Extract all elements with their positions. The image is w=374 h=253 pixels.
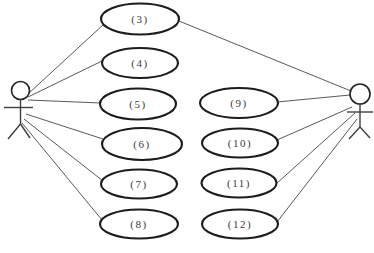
use-case-label-4: (4)	[131, 57, 148, 70]
use-case-node-10: (10)	[202, 129, 278, 158]
actor-right	[347, 84, 373, 139]
association-line-left-uc6	[26, 114, 103, 139]
use-case-node-4: (4)	[102, 48, 178, 78]
use-case-label-9: (9)	[230, 97, 247, 110]
use-case-node-5: (5)	[100, 89, 176, 120]
use-case-node-3: (3)	[101, 4, 179, 35]
use-case-node-12: (12)	[202, 210, 278, 239]
actor-right-leg-left	[349, 127, 360, 139]
association-line-left-uc4	[28, 60, 104, 97]
association-line-right-uc3	[179, 21, 351, 91]
use-case-diagram-canvas: (3) (4) (5) (6) (7) (8) (9) (10)	[0, 0, 374, 253]
actor-left-leg-left	[8, 124, 21, 139]
use-case-label-11: (11)	[227, 177, 251, 190]
use-case-node-7: (7)	[101, 170, 177, 199]
use-case-label-8: (8)	[130, 218, 147, 231]
use-case-node-6: (6)	[102, 128, 182, 160]
use-case-diagram: (3) (4) (5) (6) (7) (8) (9) (10)	[0, 0, 374, 253]
actor-right-leg-right	[360, 127, 370, 138]
association-line-right-uc11	[276, 113, 355, 184]
use-case-label-12: (12)	[228, 218, 252, 231]
use-case-label-6: (6)	[133, 138, 150, 151]
actor-right-head-icon	[350, 84, 370, 104]
use-case-node-8: (8)	[100, 210, 178, 239]
use-case-label-7: (7)	[130, 178, 147, 191]
actor-left-head-icon	[12, 82, 30, 100]
use-case-node-9: (9)	[200, 88, 278, 118]
association-line-left-uc7	[24, 119, 103, 181]
associations-left-actor	[22, 24, 104, 220]
association-line-left-uc5	[28, 100, 101, 103]
association-line-left-uc8	[22, 123, 102, 220]
use-case-label-10: (10)	[228, 137, 252, 150]
use-case-label-3: (3)	[131, 13, 148, 26]
association-line-left-uc3	[28, 24, 104, 94]
use-case-label-5: (5)	[129, 98, 146, 111]
association-line-right-uc10	[277, 107, 352, 140]
use-case-node-11: (11)	[202, 169, 277, 198]
association-line-right-uc9	[277, 95, 350, 102]
